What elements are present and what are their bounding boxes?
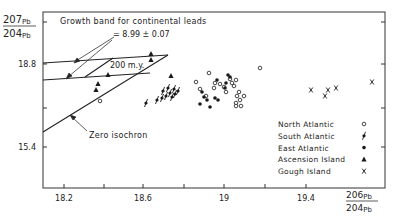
x-tick-label: 18.2 <box>55 194 73 203</box>
zero-isochron-label: Zero isochron <box>89 131 148 140</box>
slashed-dot-marker <box>155 96 158 104</box>
filled-circle-marker <box>216 98 220 102</box>
x-tick-label: 19.4 <box>297 194 315 203</box>
slashed-dot-marker <box>173 90 176 98</box>
slashed-dot-marker <box>172 85 175 93</box>
filled-circle-marker <box>202 95 206 99</box>
chart: 18.218.61919.4 18.815.4 207Pb 204Pb 206P… <box>0 0 399 219</box>
open-circle-marker <box>232 84 236 88</box>
legend-item: Ascension Island <box>278 155 367 164</box>
legend-label: Gough Island <box>278 167 331 176</box>
x-tick-label: 19 <box>219 194 229 203</box>
open-circle-marker <box>224 90 228 94</box>
x-axis-ticks: 18.218.61919.4 <box>55 184 315 203</box>
open-circle-marker <box>239 104 243 108</box>
legend-label: South Atlantic <box>278 132 335 141</box>
filled-circle-marker <box>198 102 202 106</box>
legend-label: East Atlantic <box>278 144 329 153</box>
filled-triangle-marker <box>95 81 100 86</box>
open-circle-marker <box>234 78 238 82</box>
open-circle-marker <box>218 82 222 86</box>
filled-triangle-marker <box>105 72 110 77</box>
open-circle-marker <box>235 94 239 98</box>
right-axis-ticks <box>381 22 385 147</box>
filled-triangle-marker <box>361 156 366 161</box>
x-marker <box>323 94 327 99</box>
open-circle-marker <box>237 90 241 94</box>
open-circle-marker <box>194 80 198 84</box>
filled-circle-marker <box>223 86 227 90</box>
series-north-atlantic <box>98 66 262 108</box>
legend: North AtlanticSouth AtlanticEast Atlanti… <box>278 120 367 176</box>
filled-circle-marker <box>362 146 366 150</box>
open-circle-marker <box>213 81 217 85</box>
data-points <box>93 51 373 109</box>
filled-triangle-marker <box>148 51 153 56</box>
filled-triangle-marker <box>148 57 153 62</box>
slashed-dot-marker <box>176 87 179 95</box>
y-axis-label: 207Pb 204Pb <box>3 14 36 40</box>
legend-item: South Atlantic <box>278 132 366 141</box>
x-marker <box>362 169 366 174</box>
legend-item: North Atlantic <box>278 120 366 129</box>
svg-text:207Pb: 207Pb <box>3 14 31 26</box>
y-tick-label: 18.8 <box>18 60 36 69</box>
growth-band-annotation: Growth band for continental leads <box>60 17 207 26</box>
filled-circle-marker <box>200 90 204 94</box>
svg-text:204Pb: 204Pb <box>3 28 31 40</box>
open-circle-marker <box>198 87 202 91</box>
x-marker <box>309 88 313 93</box>
legend-label: North Atlantic <box>278 120 334 129</box>
open-circle-marker <box>207 71 211 75</box>
slashed-dot-marker <box>160 94 163 102</box>
x-marker <box>326 88 330 93</box>
zero-isochron-line <box>43 55 168 132</box>
mu-arrows <box>66 37 114 79</box>
open-circle-marker <box>242 94 246 98</box>
svg-text:206Pb: 206Pb <box>346 190 372 201</box>
open-circle-marker <box>362 122 366 126</box>
series-south-atlantic <box>144 84 179 107</box>
x-marker <box>334 86 338 91</box>
filled-circle-marker <box>213 96 217 100</box>
filled-triangle-marker <box>168 73 173 78</box>
y-tick-label: 15.4 <box>18 143 36 152</box>
legend-label: Ascension Island <box>278 155 345 164</box>
filled-circle-marker <box>228 75 232 79</box>
filled-circle-marker <box>224 81 228 85</box>
open-circle-marker <box>238 98 242 102</box>
slashed-dot-marker <box>166 84 169 92</box>
filled-circle-marker <box>208 105 212 109</box>
open-circle-marker <box>234 104 238 108</box>
svg-text:204Pb: 204Pb <box>346 203 372 214</box>
open-circle-marker <box>98 99 102 103</box>
filled-circle-marker <box>215 78 219 82</box>
slashed-dot-marker <box>362 132 365 140</box>
zero-isochron-arrow <box>70 115 87 131</box>
slashed-dot-marker <box>164 92 167 100</box>
series-gough-island <box>309 80 374 99</box>
x-marker <box>370 80 374 85</box>
legend-item: East Atlantic <box>278 144 366 153</box>
legend-item: Gough Island <box>278 167 366 176</box>
isochron-200-label: 200 m.y. <box>110 61 144 70</box>
slashed-dot-marker <box>161 87 164 95</box>
slashed-dot-marker <box>144 99 147 107</box>
x-axis-label: 206Pb 204Pb <box>346 190 378 214</box>
x-tick-label: 18.6 <box>134 194 152 203</box>
reference-lines <box>43 55 168 132</box>
open-circle-marker <box>258 66 262 70</box>
open-circle-marker <box>212 86 216 90</box>
filled-triangle-marker <box>93 87 98 92</box>
mu-annotation: = 8.99 ± 0.07 <box>113 30 170 39</box>
filled-circle-marker <box>205 98 209 102</box>
